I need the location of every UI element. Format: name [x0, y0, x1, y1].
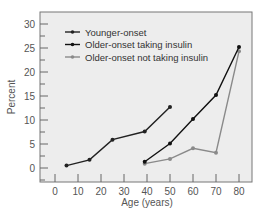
legend-label: Older-onset taking insulin — [85, 39, 192, 50]
x-axis-title: Age (years) — [121, 197, 173, 208]
x-tick-label: 60 — [187, 186, 199, 197]
data-point-marker — [191, 117, 195, 121]
legend-label: Older-onset not taking insulin — [85, 52, 208, 63]
data-point-marker — [111, 138, 115, 142]
data-point-marker — [168, 142, 172, 146]
y-tick-label: 10 — [24, 115, 36, 126]
plot-area — [40, 12, 252, 182]
y-tick-label: 0 — [29, 163, 35, 174]
data-point-marker — [65, 164, 69, 168]
data-point-marker — [143, 130, 147, 134]
y-tick-label: 25 — [24, 43, 36, 54]
data-point-marker — [88, 158, 92, 162]
data-point-marker — [168, 157, 172, 161]
x-tick-label: 20 — [95, 186, 107, 197]
legend-marker-icon — [71, 30, 75, 34]
x-tick-label: 80 — [233, 186, 245, 197]
data-point-marker — [214, 151, 218, 155]
y-tick-label: 30 — [24, 19, 36, 30]
x-tick-label: 10 — [72, 186, 84, 197]
data-point-marker — [143, 160, 147, 164]
x-tick-label: 50 — [164, 186, 176, 197]
y-tick-label: 15 — [24, 91, 36, 102]
legend-label: Younger-onset — [85, 27, 147, 38]
data-point-marker — [214, 93, 218, 97]
data-point-marker — [191, 146, 195, 150]
data-point-marker — [168, 105, 172, 109]
x-tick-label: 0 — [52, 186, 58, 197]
legend-marker-icon — [71, 43, 75, 47]
y-tick-label: 5 — [29, 139, 35, 150]
line-chart: 051015202530 01020304050607080 Younger-o… — [0, 0, 265, 217]
data-point-marker — [237, 45, 241, 49]
x-tick-label: 30 — [118, 186, 130, 197]
legend-marker-icon — [71, 55, 75, 59]
x-tick-label: 70 — [210, 186, 222, 197]
y-tick-label: 20 — [24, 67, 36, 78]
x-tick-label: 40 — [141, 186, 153, 197]
y-axis-title: Percent — [6, 80, 17, 115]
